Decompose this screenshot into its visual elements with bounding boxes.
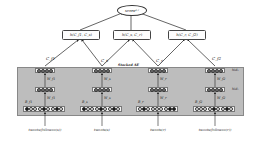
weight-label: W_f2 — [217, 77, 225, 81]
hid2-label: hid₂ — [232, 68, 239, 72]
source-label: tweets(followee(r)) — [199, 128, 232, 132]
hid1-label: hid₁ — [232, 87, 239, 91]
layer-arrows — [0, 0, 260, 144]
input-bag-label: B_f2 — [195, 100, 202, 104]
weight-label: W_f2 — [217, 96, 225, 100]
